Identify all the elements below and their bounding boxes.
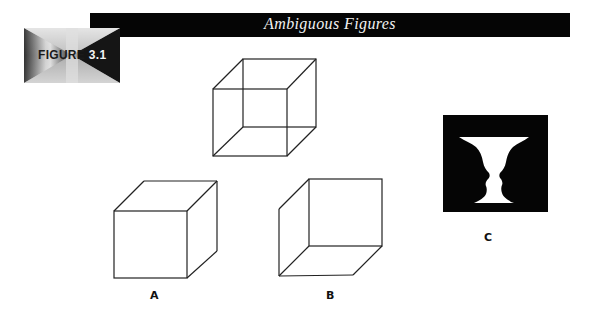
rubin-vase-icon xyxy=(443,115,548,212)
figures-canvas xyxy=(0,0,592,318)
cube-a-icon xyxy=(114,181,217,278)
label-c: C xyxy=(484,231,492,244)
necker-cube-icon xyxy=(213,59,316,156)
label-a: A xyxy=(150,289,159,302)
cube-b-icon xyxy=(279,179,382,276)
label-b: B xyxy=(326,289,334,302)
